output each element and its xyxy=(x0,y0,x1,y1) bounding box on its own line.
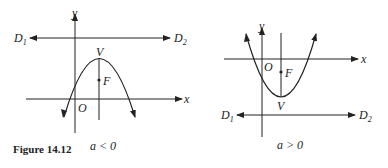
figure-canvas: y x O V F D1 D2 Figure 14.12 a < 0 y x O… xyxy=(0,0,388,168)
origin-label: O xyxy=(264,60,273,74)
focus-label: F xyxy=(102,74,111,88)
vertex-label: V xyxy=(96,45,105,59)
origin-label: O xyxy=(78,101,87,115)
x-label: x xyxy=(183,92,190,106)
d2-label: D2 xyxy=(173,31,187,47)
figure-caption: Figure 14.12 xyxy=(13,143,72,155)
focus-point xyxy=(97,78,100,81)
d2-label: D2 xyxy=(358,108,372,124)
focus-label: F xyxy=(284,66,293,80)
y-label: y xyxy=(258,19,265,33)
right-panel: y x O V F D1 D2 a > 0 xyxy=(220,19,372,152)
x-label: x xyxy=(360,52,367,66)
arrow-left-end xyxy=(244,33,250,42)
condition-label: a < 0 xyxy=(90,139,116,153)
focus-point xyxy=(279,70,282,73)
d1-label: D1 xyxy=(13,31,27,47)
vertex-label: V xyxy=(277,99,286,113)
condition-label: a > 0 xyxy=(277,138,303,152)
d1-label: D1 xyxy=(220,108,234,124)
left-panel: y x O V F D1 D2 Figure 14.12 a < 0 xyxy=(13,6,190,155)
y-label: y xyxy=(71,6,78,20)
